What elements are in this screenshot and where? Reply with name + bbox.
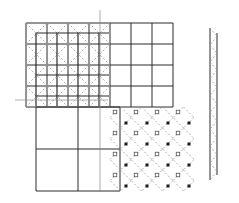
tiling-diagram xyxy=(0,0,239,203)
lower-large-square-grid xyxy=(36,107,120,191)
vertical-zigzag-strip xyxy=(210,28,217,180)
diamond-lattice-with-markers xyxy=(110,107,194,191)
